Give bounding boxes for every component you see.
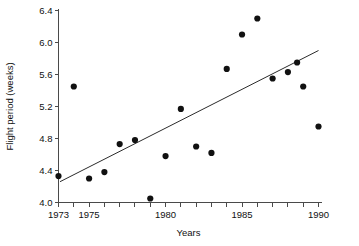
scatter-chart-figure: 4.04.44.85.25.66.06.4 197319751980198519… — [0, 0, 359, 246]
x-axis-title: Years — [177, 227, 201, 238]
data-points-group — [55, 15, 321, 201]
y-axis-title: Flight period (weeks) — [4, 62, 15, 150]
x-axis-tick-label: 1985 — [231, 209, 252, 220]
y-axis-tick-label: 4.4 — [39, 165, 52, 176]
data-point — [117, 141, 123, 147]
data-point — [224, 66, 230, 72]
plot-canvas: 4.04.44.85.25.66.06.4 197319751980198519… — [0, 0, 359, 246]
y-axis-tick-label: 4.0 — [39, 197, 52, 208]
data-point — [178, 106, 184, 112]
y-axis-tick-label: 6.0 — [39, 37, 52, 48]
data-point — [315, 123, 321, 129]
y-axis-group: 4.04.44.85.25.66.06.4 — [39, 5, 58, 208]
data-point — [101, 169, 107, 175]
x-axis-tick-label: 1990 — [308, 209, 329, 220]
y-axis-tick-label: 4.8 — [39, 133, 52, 144]
data-point — [193, 143, 199, 149]
data-point — [162, 153, 168, 159]
data-point — [208, 150, 214, 156]
trendline-group — [60, 51, 318, 182]
data-point — [239, 31, 245, 37]
data-point — [55, 173, 61, 179]
data-point — [86, 175, 92, 181]
data-point — [285, 69, 291, 75]
y-axis-tick-label: 5.2 — [39, 101, 52, 112]
data-point — [294, 59, 300, 65]
x-axis-tick-label: 1975 — [79, 209, 100, 220]
x-axis-tick-label: 1980 — [155, 209, 176, 220]
data-point — [147, 195, 153, 201]
data-point — [132, 137, 138, 143]
data-point — [254, 15, 260, 21]
x-axis-tick-label: 1973 — [48, 209, 69, 220]
y-axis-tick-label: 6.4 — [39, 5, 52, 16]
data-point — [270, 75, 276, 81]
regression-trendline — [60, 51, 318, 182]
data-point — [71, 83, 77, 89]
y-axis-tick-label: 5.6 — [39, 69, 52, 80]
x-axis-group: 19731975198019851990 — [48, 203, 329, 220]
data-point — [300, 83, 306, 89]
